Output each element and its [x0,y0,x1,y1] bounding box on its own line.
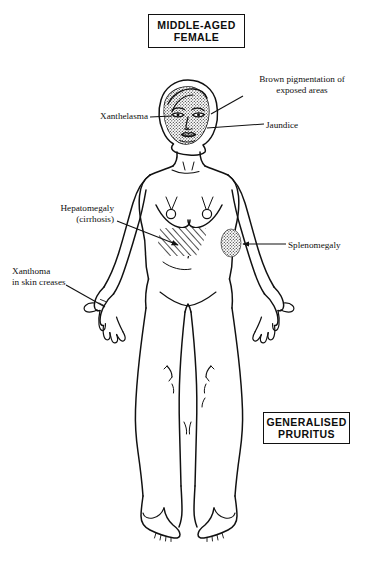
title-box: MIDDLE-AGED FEMALE [148,14,245,48]
label-hepatomegaly: Hepatomegaly (cirrhosis) [36,203,114,225]
label-splenomegaly: Splenomegaly [288,240,366,251]
label-brown-pigmentation: Brown pigmentation of exposed areas [240,74,364,96]
label-xanthelasma: Xanthelasma [74,111,148,122]
body-figure [84,152,294,542]
label-xanthoma: Xanthoma in skin creases [12,266,98,288]
medical-diagram: MIDDLE-AGED FEMALE GENERALISED PRURITUS … [0,0,366,572]
label-jaundice: Jaundice [266,120,356,131]
liver-hatch-region [150,222,212,262]
generalised-pruritus-box: GENERALISED PRURITUS [263,412,350,444]
